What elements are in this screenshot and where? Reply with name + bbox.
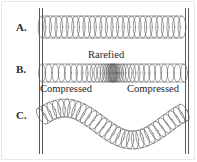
slinky-coil-rest (38, 16, 186, 38)
row-label-c: C. (16, 110, 27, 121)
row-label-b: B. (16, 64, 26, 75)
figure-border (1, 1, 195, 160)
coil-illustrations (0, 0, 197, 162)
slinky-coil-longitudinal (39, 64, 188, 82)
slinky-wave-diagram: A. B. C. Rarefied Compressed Compressed (0, 0, 197, 162)
annotation-compressed-right: Compressed (127, 84, 179, 95)
slinky-coil-transverse (34, 99, 191, 149)
annotation-rarefied: Rarefied (88, 50, 124, 61)
right-support-wall (185, 8, 189, 154)
annotation-compressed-left: Compressed (40, 84, 92, 95)
left-support-wall (39, 8, 43, 154)
row-label-a: A. (16, 22, 27, 33)
